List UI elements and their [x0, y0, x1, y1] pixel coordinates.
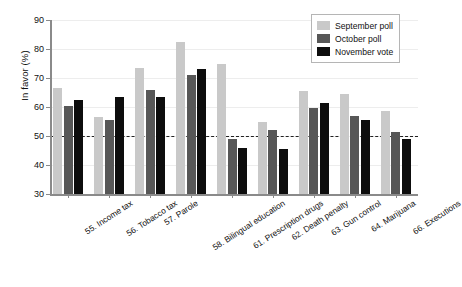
bar	[197, 69, 206, 194]
bar	[238, 148, 247, 194]
bar	[320, 103, 329, 194]
bar	[176, 42, 185, 194]
y-axis-tick-label: 40	[24, 160, 44, 170]
y-axis-tick-label: 80	[24, 44, 44, 54]
legend-item: October poll	[317, 32, 393, 45]
x-axis-line	[50, 194, 418, 196]
x-axis-tick-mark	[150, 194, 151, 198]
bar-group	[217, 20, 247, 194]
legend-item: September poll	[317, 19, 393, 32]
bar-group	[135, 20, 165, 194]
bar	[53, 88, 62, 194]
legend-swatch-september-icon	[317, 21, 330, 30]
y-axis-tick-mark	[46, 165, 50, 166]
legend-label: October poll	[335, 34, 381, 44]
y-axis-tick-mark	[46, 194, 50, 195]
y-axis-tick-label: 70	[24, 73, 44, 83]
legend-label: September poll	[335, 21, 393, 31]
x-axis-tick-label: 66. Executions	[410, 198, 462, 236]
bar	[361, 120, 370, 194]
y-axis-tick-mark	[46, 49, 50, 50]
legend-label: November vote	[335, 47, 393, 57]
bar	[64, 106, 73, 194]
bar	[74, 100, 83, 194]
y-axis-tick-mark	[46, 78, 50, 79]
legend-swatch-october-icon	[317, 34, 330, 43]
x-axis-tick-mark	[68, 194, 69, 198]
bar	[94, 117, 103, 194]
bar	[350, 116, 359, 194]
bar-group	[258, 20, 288, 194]
x-axis-tick-mark	[396, 194, 397, 198]
bar-group	[176, 20, 206, 194]
bar	[217, 64, 226, 195]
bar	[258, 122, 267, 195]
bar	[115, 97, 124, 194]
x-axis-tick-mark	[314, 194, 315, 198]
x-axis-tick-mark	[232, 194, 233, 198]
legend-item: November vote	[317, 45, 393, 58]
legend-swatch-november-icon	[317, 47, 330, 56]
bar	[391, 132, 400, 194]
y-axis-tick-label: 30	[24, 189, 44, 199]
bar	[299, 91, 308, 194]
y-axis-tick-mark	[46, 136, 50, 137]
x-axis-tick-mark	[109, 194, 110, 198]
bar	[340, 94, 349, 194]
bar	[156, 97, 165, 194]
y-axis-tick-label: 90	[24, 15, 44, 25]
bar	[279, 149, 288, 194]
x-axis-tick-mark	[273, 194, 274, 198]
bar	[187, 75, 196, 194]
bar	[135, 68, 144, 194]
bar	[309, 108, 318, 194]
bar	[381, 111, 390, 194]
y-axis-tick-label: 60	[24, 102, 44, 112]
bar	[146, 90, 155, 194]
bar-group	[94, 20, 124, 194]
bar	[228, 139, 237, 194]
bar	[402, 139, 411, 194]
x-axis-tick-mark	[191, 194, 192, 198]
bar	[105, 120, 114, 194]
legend: September poll October poll November vot…	[311, 14, 400, 63]
x-axis-tick-mark	[355, 194, 356, 198]
y-axis-tick-mark	[46, 20, 50, 21]
y-axis-tick-label: 50	[24, 131, 44, 141]
bar	[268, 130, 277, 194]
y-axis-tick-mark	[46, 107, 50, 108]
bar-group	[53, 20, 83, 194]
